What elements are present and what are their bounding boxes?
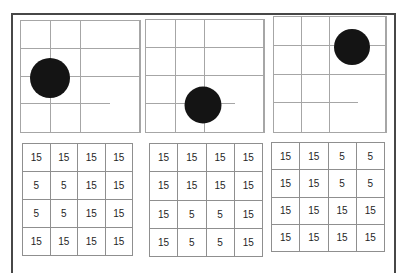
grid-cell [302,75,330,104]
table-cell: 15 [50,144,78,172]
grid-cell [110,77,140,105]
value-table-left: 1515151555151555151515151515 [22,143,133,256]
table-cell: 15 [300,143,328,170]
stimulus-grid-middle [145,19,265,133]
table-cell: 5 [23,200,51,228]
grid-cell [330,75,358,104]
grid-cell [176,20,206,48]
table-cell: 15 [234,228,262,256]
grid-cell [302,17,330,46]
table-row: 155515 [150,228,263,256]
value-table-middle: 1515151515151515155515155515 [149,143,263,257]
table-row: 551515 [23,172,133,200]
grid-cell [110,21,140,49]
grid-cell [274,75,302,104]
table-row: 15151515 [150,144,263,172]
table-cell: 5 [178,228,206,256]
table-cell: 5 [206,200,234,228]
table-cell: 15 [234,144,262,172]
grid-cell [146,20,176,48]
table-cell: 15 [105,144,133,172]
table-cell: 15 [150,228,178,256]
table-cell: 15 [272,143,300,170]
grid-cell [146,48,176,76]
table-row: 15151515 [23,144,133,172]
table-cell: 15 [105,200,133,228]
grid-cell [302,46,330,75]
grid-cell [235,76,265,104]
value-table-right: 1515551515551515151515151515 [271,142,385,252]
grid-cell [235,20,265,48]
table-cell: 15 [234,200,262,228]
table-cell: 15 [272,224,300,251]
table-cell: 5 [356,143,384,170]
table-cell: 15 [356,224,384,251]
stimulus-grid-right [273,16,387,133]
grid-cell [146,104,176,132]
grid-cell [358,75,386,104]
grid-cell [176,48,206,76]
grid-cell [81,21,111,49]
grid-cell [81,77,111,105]
table-row: 551515 [23,200,133,228]
grid-cell [274,103,302,132]
table-row: 15151515 [150,172,263,200]
table-row: 15151515 [272,197,385,224]
table-cell: 5 [328,143,356,170]
grid-cell [51,21,81,49]
table-cell: 5 [50,200,78,228]
grid-cell [274,46,302,75]
table-cell: 15 [328,197,356,224]
table-cell: 15 [178,144,206,172]
table-cell: 15 [300,170,328,197]
grid-cell [110,49,140,77]
table-cell: 15 [150,200,178,228]
table-cell: 15 [50,228,78,256]
grid-cell [51,104,81,132]
grid-cell [274,17,302,46]
grid-cell [81,49,111,77]
table-row: 15151515 [23,228,133,256]
grid-cell [235,48,265,76]
table-cell: 5 [206,228,234,256]
grid-cell [21,104,51,132]
grid-cell [81,104,111,132]
table-cell: 15 [328,224,356,251]
grid-cell [330,103,358,132]
figure-canvas: 1515151555151555151515151515 15151515151… [0,0,404,273]
table-cell: 15 [300,197,328,224]
table-row: 155515 [150,200,263,228]
table-cell: 15 [356,197,384,224]
table-cell: 15 [78,172,106,200]
table-cell: 15 [23,228,51,256]
table-cell: 15 [105,172,133,200]
table-cell: 15 [178,172,206,200]
table-cell: 15 [78,200,106,228]
grid-cell [235,104,265,132]
table-cell: 15 [272,170,300,197]
table-cell: 5 [328,170,356,197]
table-cell: 15 [206,144,234,172]
table-cell: 15 [105,228,133,256]
table-cell: 15 [78,228,106,256]
table-cell: 5 [23,172,51,200]
table-cell: 15 [150,172,178,200]
table-cell: 15 [78,144,106,172]
table-cell: 15 [23,144,51,172]
table-row: 151555 [272,170,385,197]
grid-cell [302,103,330,132]
stimulus-dot-right [334,29,370,65]
table-cell: 15 [206,172,234,200]
table-cell: 15 [272,197,300,224]
stimulus-dot-middle [184,87,221,124]
table-cell: 5 [178,200,206,228]
table-row: 151555 [272,143,385,170]
stimulus-dot-left [30,58,70,98]
table-cell: 15 [300,224,328,251]
table-cell: 5 [50,172,78,200]
stimulus-grid-left [20,20,141,133]
table-cell: 15 [234,172,262,200]
table-cell: 15 [150,144,178,172]
grid-cell [205,20,235,48]
grid-cell [358,103,386,132]
